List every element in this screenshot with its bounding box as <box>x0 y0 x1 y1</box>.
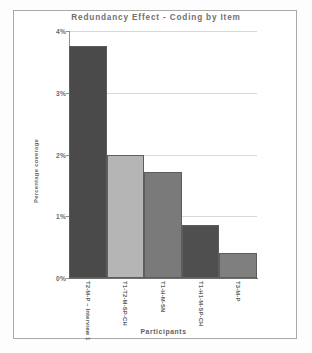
y-axis-tick-label: 0% <box>56 275 66 282</box>
x-axis-title: Participants <box>69 328 258 335</box>
x-axis-tick-label: T1-H1-M-SP-CH <box>198 281 204 326</box>
x-axis-tick-label: T3-M-P <box>235 281 241 302</box>
y-axis-tick-mark <box>66 216 69 217</box>
x-axis-line <box>69 278 258 279</box>
x-axis-label-slot: T1-H-M-SN <box>144 281 182 327</box>
y-axis-tick-mark <box>66 155 69 156</box>
x-axis-label-slot: T2-M-P – Interview 1 <box>69 281 107 327</box>
x-axis-label-slot: T3-M-P <box>219 281 257 327</box>
y-axis-tick-label: 1% <box>56 213 66 220</box>
y-axis-title: Percentage coverage <box>33 139 39 203</box>
plot-area <box>69 31 257 278</box>
y-axis-title-wrap: Percentage coverage <box>30 126 42 216</box>
scanned-page: Redundancy Effect - Coding by Item 0%1%2… <box>0 0 312 353</box>
y-axis-tick-mark <box>66 278 69 279</box>
x-axis-label-slot: T1-H1-M-SP-CH <box>182 281 220 327</box>
y-axis-tick-label: 4% <box>56 28 66 35</box>
bar <box>144 172 182 278</box>
y-axis-tick-mark <box>66 93 69 94</box>
bar <box>107 155 145 279</box>
x-axis-tick-label: T1-H-M-SN <box>160 281 166 312</box>
x-axis-label-slot: T1-T2-M-SP-CH <box>106 281 144 327</box>
bar <box>219 253 257 278</box>
y-axis-ticks: 0%1%2%3%4% <box>46 0 66 353</box>
bar <box>182 225 220 278</box>
x-axis-tick-label: T1-T2-M-SP-CH <box>122 281 128 326</box>
y-axis-tick-label: 2% <box>56 151 66 158</box>
bar <box>69 46 107 278</box>
y-axis-tick-mark <box>66 31 69 32</box>
y-axis-tick-label: 3% <box>56 89 66 96</box>
